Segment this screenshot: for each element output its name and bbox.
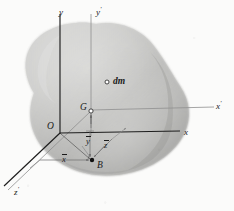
- marker-b: [90, 158, 94, 162]
- axis-label-z-prime: z': [14, 186, 19, 197]
- point-label-o: O: [47, 122, 54, 132]
- point-label-g: G: [80, 103, 87, 113]
- dimension-label-x-bar: x: [62, 155, 66, 164]
- rigid-body-shape: [26, 23, 189, 176]
- axis-z-line: [4, 133, 60, 186]
- marker-dm: [105, 80, 109, 84]
- axis-label-x-prime: x': [216, 100, 222, 111]
- figure-canvas: [0, 0, 234, 211]
- marker-g: [89, 109, 93, 113]
- dimension-label-y-bar: y: [86, 137, 90, 146]
- mechanics-figure: y y' x x' z' O G B dm x y z: [0, 0, 234, 211]
- point-label-b: B: [97, 161, 103, 171]
- axis-label-x: x: [184, 126, 188, 137]
- axis-label-y-prime: y': [96, 6, 102, 17]
- line-z-leader: [30, 160, 40, 168]
- axis-label-y: y: [59, 6, 63, 17]
- mass-element-label-dm: dm: [113, 77, 125, 87]
- dimension-label-z-bar: z: [104, 141, 107, 150]
